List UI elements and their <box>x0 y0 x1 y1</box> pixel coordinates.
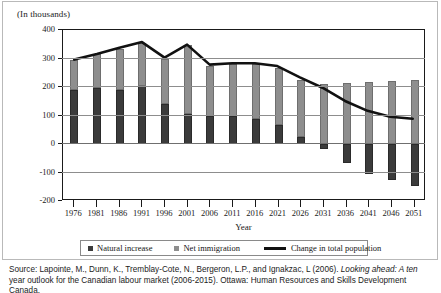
x-tick-mark-2006 <box>209 200 210 207</box>
gridline-300 <box>62 58 425 59</box>
x-axis-tick-label: 2031 <box>314 208 331 218</box>
gridline-200 <box>62 86 425 87</box>
legend-label-change-in-total-population: Change in total population <box>291 243 381 253</box>
x-axis-tick-label: 2011 <box>224 208 241 218</box>
legend-label-net-immigration: Net immigration <box>183 243 239 253</box>
legend-item-change-in-total-population: Change in total population <box>264 243 381 253</box>
x-axis-labels: 1976198119861991199620012006201120162021… <box>62 208 425 222</box>
x-axis-tick-label: 1991 <box>133 208 150 218</box>
y-axis-tick-label: 400 <box>0 24 55 34</box>
x-axis-tick-label: 2021 <box>269 208 286 218</box>
x-axis-tick-label: 2036 <box>337 208 354 218</box>
y-tick-mark-400 <box>58 29 62 30</box>
y-axis-tick-label: -100 <box>0 167 55 177</box>
legend-item-natural-increase: Natural increase <box>88 243 152 253</box>
x-tick-mark-1981 <box>96 200 97 207</box>
x-tick-mark-2011 <box>232 200 233 207</box>
x-axis-tick-label: 2046 <box>382 208 399 218</box>
gridline-100 <box>62 115 425 116</box>
x-axis-title: Year <box>62 222 425 232</box>
y-axis-units-label: (In thousands) <box>17 9 70 19</box>
y-axis-tick-label: -200 <box>0 195 55 205</box>
x-axis-ticks <box>62 200 425 208</box>
legend-swatch-icon-net-immigration <box>174 246 179 251</box>
y-axis-tick-label: 100 <box>0 110 55 120</box>
x-tick-mark-1976 <box>73 200 74 207</box>
line-series-change-in-total-population <box>74 42 412 119</box>
legend-label-natural-increase: Natural increase <box>97 243 152 253</box>
x-tick-mark-2026 <box>300 200 301 207</box>
x-tick-mark-1991 <box>141 200 142 207</box>
x-axis-tick-label: 1986 <box>110 208 127 218</box>
x-tick-mark-2001 <box>187 200 188 207</box>
source-line1-prefix: Source: Lapointe, M., Dunn, K., Tremblay… <box>9 265 341 274</box>
y-axis-tick-label: 0 <box>0 138 55 148</box>
x-tick-mark-2036 <box>346 200 347 207</box>
x-tick-mark-2041 <box>368 200 369 207</box>
x-tick-mark-2016 <box>255 200 256 207</box>
legend-line-icon-change-in-total-population <box>264 247 286 250</box>
x-axis-tick-label: 2026 <box>292 208 309 218</box>
source-line1-italic: Looking ahead: A ten <box>341 265 418 274</box>
x-tick-mark-2051 <box>414 200 415 207</box>
x-tick-mark-1996 <box>164 200 165 207</box>
y-tick-mark--100 <box>58 172 62 173</box>
y-tick-mark-0 <box>58 143 62 144</box>
y-axis-tick-label: 200 <box>0 81 55 91</box>
y-axis-tick-label: 300 <box>0 53 55 63</box>
y-tick-mark-300 <box>58 58 62 59</box>
x-axis-tick-label: 1981 <box>88 208 105 218</box>
x-axis-tick-label: 1996 <box>156 208 173 218</box>
x-axis-tick-label: 2006 <box>201 208 218 218</box>
y-tick-mark-100 <box>58 115 62 116</box>
x-tick-mark-2031 <box>323 200 324 207</box>
x-tick-mark-2046 <box>391 200 392 207</box>
gridline--100 <box>62 172 425 173</box>
chart-legend: Natural increase Net immigration Change … <box>80 240 368 256</box>
x-axis-tick-label: 1976 <box>65 208 82 218</box>
gridline-0 <box>62 143 425 144</box>
x-tick-mark-1986 <box>119 200 120 207</box>
y-tick-mark-200 <box>58 86 62 87</box>
source-citation: Source: Lapointe, M., Dunn, K., Tremblay… <box>9 265 437 293</box>
x-axis-tick-label: 2041 <box>360 208 377 218</box>
source-line2: year outlook for the Canadian labour mar… <box>9 276 437 293</box>
legend-item-net-immigration: Net immigration <box>174 243 239 253</box>
figure-page: (In thousands) 4003002001000-100-200 197… <box>0 0 441 293</box>
x-axis-tick-label: 2001 <box>178 208 195 218</box>
x-axis-tick-label: 2016 <box>246 208 263 218</box>
x-tick-mark-2021 <box>278 200 279 207</box>
x-axis-tick-label: 2051 <box>405 208 422 218</box>
legend-swatch-icon-natural-increase <box>88 246 93 251</box>
